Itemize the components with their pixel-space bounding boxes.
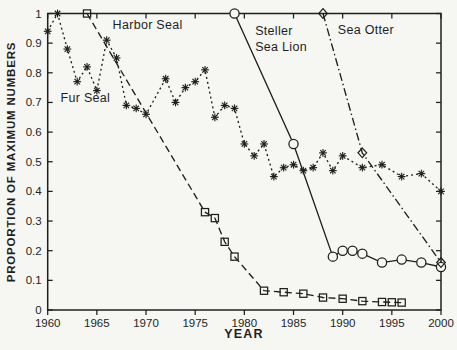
y-tick-label: 0.8: [26, 67, 42, 79]
series-label-steller: Steller: [255, 24, 293, 38]
series-label-sea-otter: Sea Otter: [338, 23, 394, 37]
asterisk-center: [47, 30, 49, 32]
asterisk-center: [204, 69, 206, 71]
asterisk-center: [194, 81, 196, 83]
x-axis-title: YEAR: [47, 327, 441, 341]
asterisk-center: [263, 143, 265, 145]
y-tick-label: 1: [35, 8, 41, 20]
y-axis-title: PROPORTION OF MAXIMUM NUMBERS: [5, 14, 19, 311]
asterisk-center: [214, 116, 216, 118]
y-tick-label: 0.7: [26, 96, 42, 108]
series-line-harbor-seal: [87, 14, 402, 303]
series-label-sea-lion: Sea Lion: [255, 40, 307, 54]
y-tick-label: 0.2: [26, 245, 42, 257]
marker-circle-steller-sea-lion: [417, 258, 426, 267]
asterisk-center: [86, 66, 88, 68]
y-tick-label: 0.3: [26, 215, 42, 227]
asterisk-center: [273, 175, 275, 177]
asterisk-center: [440, 190, 442, 192]
asterisk-center: [233, 107, 235, 109]
marker-circle-steller-sea-lion: [328, 252, 337, 261]
marker-circle-steller-sea-lion: [348, 246, 357, 255]
asterisk-center: [420, 173, 422, 175]
marker-circle-steller-sea-lion: [397, 255, 406, 264]
chart-canvas: 19601965197019751980198519901995200000.1…: [0, 0, 457, 350]
asterisk-center: [302, 170, 304, 172]
series-label-fur-seal: Fur Seal: [60, 91, 110, 105]
series-label-harbor-seal: Harbor Seal: [113, 18, 183, 32]
marker-circle-steller-sea-lion: [289, 139, 298, 148]
asterisk-center: [56, 12, 58, 14]
asterisk-center: [224, 104, 226, 106]
asterisk-center: [243, 143, 245, 145]
marker-circle-steller-sea-lion: [377, 258, 386, 267]
asterisk-center: [76, 81, 78, 83]
asterisk-center: [145, 113, 147, 115]
y-tick-label: 0.6: [26, 126, 42, 138]
asterisk-center: [292, 164, 294, 166]
y-tick-label: 0.9: [26, 37, 42, 49]
asterisk-center: [312, 167, 314, 169]
series-line-sea-otter: [323, 14, 441, 263]
asterisk-center: [106, 39, 108, 41]
marker-circle-steller-sea-lion: [358, 249, 367, 258]
asterisk-center: [165, 78, 167, 80]
asterisk-center: [174, 101, 176, 103]
asterisk-center: [253, 155, 255, 157]
marker-circle-steller-sea-lion: [230, 9, 239, 18]
asterisk-center: [322, 152, 324, 154]
figure-proportion-of-maximum-numbers: 19601965197019751980198519901995200000.1…: [0, 0, 457, 350]
y-tick-label: 0.4: [26, 185, 43, 197]
asterisk-center: [115, 57, 117, 59]
asterisk-center: [184, 87, 186, 89]
asterisk-center: [66, 48, 68, 50]
asterisk-center: [342, 155, 344, 157]
y-tick-label: 0: [35, 304, 41, 316]
marker-circle-steller-sea-lion: [338, 246, 347, 255]
y-tick-label: 0.1: [26, 274, 42, 286]
asterisk-center: [135, 107, 137, 109]
y-tick-label: 0.5: [26, 156, 42, 168]
asterisk-center: [361, 167, 363, 169]
asterisk-center: [401, 175, 403, 177]
asterisk-center: [125, 104, 127, 106]
asterisk-center: [332, 170, 334, 172]
asterisk-center: [381, 164, 383, 166]
asterisk-center: [283, 167, 285, 169]
